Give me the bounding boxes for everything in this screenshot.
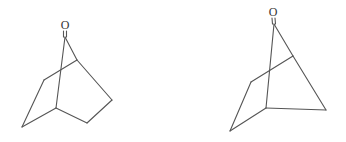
bond-c5-c4-left	[56, 108, 87, 123]
bond-c6-c5-left	[87, 100, 112, 123]
molecule-right: O	[230, 5, 326, 131]
carbonyl-double-bond-right-b	[275, 18, 276, 24]
bond-c1-c6-left	[77, 60, 112, 100]
bond-c1-c5-right	[293, 56, 326, 110]
bond-c7-c1-left	[65, 37, 77, 60]
bond-c7-c4-right	[266, 24, 274, 108]
oxygen-atom-label-right: O	[269, 5, 278, 19]
bond-c7-c1-right	[274, 24, 293, 56]
bond-c1-c2-right	[251, 56, 293, 82]
carbonyl-double-bond-right-a	[272, 18, 273, 24]
bond-c2-c3-left	[22, 80, 44, 127]
molecule-left: O	[22, 18, 112, 127]
chemical-structure-canvas: O O	[0, 0, 346, 142]
bond-c1-c2-left	[44, 60, 77, 80]
bond-c4-c5-right	[266, 108, 326, 110]
oxygen-atom-label-left: O	[61, 18, 70, 32]
bond-c3-c4-left	[22, 108, 56, 127]
